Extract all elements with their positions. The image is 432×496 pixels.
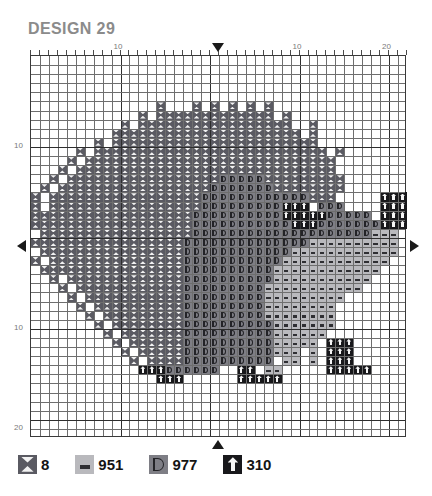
stitch-cell <box>309 174 318 183</box>
stitch-symbol-951 <box>282 265 291 274</box>
stitch-symbol-8 <box>85 202 94 211</box>
stitch-symbol-8 <box>103 247 112 256</box>
stitch-cell <box>237 283 246 292</box>
stitch-symbol-8 <box>40 211 49 220</box>
stitch-symbol-977 <box>192 365 201 374</box>
stitch-cell <box>76 247 85 256</box>
stitch-symbol-8 <box>165 138 174 147</box>
stitch-symbol-8 <box>183 129 192 138</box>
stitch-symbol-8 <box>121 120 130 129</box>
stitch-cell <box>183 238 192 247</box>
stitch-symbol-951 <box>317 265 326 274</box>
stitch-cell <box>94 320 103 329</box>
stitch-cell <box>309 265 318 274</box>
stitch-cell <box>138 256 147 265</box>
stitch-symbol-977 <box>371 220 380 229</box>
stitch-cell <box>192 211 201 220</box>
hourglass-icon <box>18 455 37 474</box>
stitch-cell <box>85 229 94 238</box>
stitch-cell <box>326 220 335 229</box>
stitch-symbol-8 <box>282 174 291 183</box>
stitch-symbol-951 <box>282 356 291 365</box>
stitch-symbol-8 <box>273 165 282 174</box>
stitch-symbol-8 <box>138 129 147 138</box>
stitch-symbol-8 <box>156 129 165 138</box>
stitch-cell <box>237 220 246 229</box>
stitch-symbol-977 <box>246 320 255 329</box>
stitch-cell <box>317 274 326 283</box>
stitch-cell <box>121 247 130 256</box>
stitch-cell <box>76 265 85 274</box>
stitch-symbol-8 <box>147 311 156 320</box>
stitch-symbol-951 <box>273 320 282 329</box>
stitch-cell <box>67 238 76 247</box>
stitch-symbol-977 <box>335 220 344 229</box>
stitch-symbol-977 <box>219 329 228 338</box>
stitch-cell <box>344 229 353 238</box>
stitch-cell <box>94 147 103 156</box>
page-title: DESIGN 29 <box>28 20 115 38</box>
stitch-cell <box>85 220 94 229</box>
stitch-cell <box>103 211 112 220</box>
stitch-cell <box>255 265 264 274</box>
stitch-symbol-951 <box>291 256 300 265</box>
stitch-cell <box>246 320 255 329</box>
stitch-cell <box>210 347 219 356</box>
stitch-symbol-8 <box>183 183 192 192</box>
stitch-cell <box>228 356 237 365</box>
stitch-cell <box>371 265 380 274</box>
stitch-cell <box>255 274 264 283</box>
legend-item-310[interactable]: 310 <box>223 455 271 474</box>
stitch-cell <box>156 183 165 192</box>
stitch-cell <box>156 147 165 156</box>
stitch-symbol-951 <box>326 292 335 301</box>
stitch-cell <box>192 365 201 374</box>
stitch-cell <box>264 347 273 356</box>
stitch-symbol-8 <box>156 292 165 301</box>
legend-item-951[interactable]: 951 <box>75 455 123 474</box>
stitch-symbol-8 <box>40 220 49 229</box>
stitch-symbol-8 <box>94 265 103 274</box>
stitch-cell <box>138 202 147 211</box>
cross-stitch-chart[interactable] <box>30 55 406 437</box>
stitch-symbol-8 <box>300 183 309 192</box>
stitch-cell <box>309 302 318 311</box>
stitch-symbol-8 <box>219 147 228 156</box>
stitch-cell <box>156 238 165 247</box>
stitch-cell <box>326 320 335 329</box>
stitch-cell <box>300 302 309 311</box>
stitch-cell <box>174 229 183 238</box>
stitch-symbol-8 <box>138 202 147 211</box>
stitch-cell <box>40 247 49 256</box>
stitch-symbol-977 <box>219 256 228 265</box>
stitch-symbol-310 <box>291 220 300 229</box>
stitch-cell <box>165 329 174 338</box>
stitch-symbol-8 <box>129 320 138 329</box>
stitch-symbol-8 <box>76 220 85 229</box>
stitch-symbol-8 <box>76 147 85 156</box>
stitch-cell <box>183 120 192 129</box>
stitch-cell <box>121 347 130 356</box>
stitch-cell <box>326 174 335 183</box>
stitch-cell <box>121 229 130 238</box>
stitch-cell <box>362 365 371 374</box>
stitch-cell <box>58 283 67 292</box>
stitch-symbol-977 <box>237 283 246 292</box>
stitch-symbol-951 <box>326 238 335 247</box>
stitch-cell <box>138 283 147 292</box>
stitch-symbol-8 <box>156 120 165 129</box>
stitch-symbol-951 <box>335 247 344 256</box>
stitch-symbol-8 <box>156 156 165 165</box>
stitch-symbol-951 <box>291 302 300 311</box>
legend-item-8[interactable]: 8 <box>18 455 49 474</box>
stitch-symbol-951 <box>309 247 318 256</box>
stitch-cell <box>165 265 174 274</box>
stitch-symbol-8 <box>121 265 130 274</box>
stitch-symbol-8 <box>165 192 174 201</box>
stitch-symbol-977 <box>264 192 273 201</box>
stitch-cell <box>309 238 318 247</box>
stitch-cell <box>273 183 282 192</box>
stitch-symbol-8 <box>138 292 147 301</box>
legend-item-977[interactable]: 977 <box>149 455 197 474</box>
stitch-symbol-977 <box>210 229 219 238</box>
